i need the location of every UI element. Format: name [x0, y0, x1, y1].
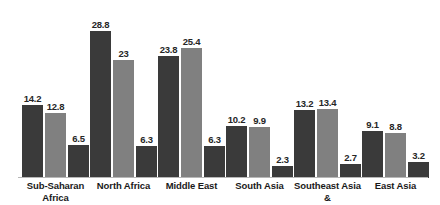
category-label: North Africa: [89, 180, 158, 192]
bar-slot: 3.2: [408, 0, 429, 178]
x-axis-baseline: [18, 177, 428, 178]
bar-slot: 10.2: [226, 0, 247, 178]
bar-value-label: 14.2: [24, 94, 42, 104]
category-label-line: North Africa: [89, 180, 158, 192]
bar-value-label: 2.3: [276, 155, 289, 165]
bar-group: 14.212.86.5: [21, 0, 90, 178]
bar-value-label: 13.4: [319, 98, 337, 108]
bar[interactable]: [68, 145, 89, 178]
bar-slot: 9.1: [362, 0, 383, 178]
bar[interactable]: [226, 126, 247, 178]
bar[interactable]: [317, 109, 338, 178]
category-label: Middle East: [157, 180, 226, 192]
bar[interactable]: [362, 131, 383, 178]
bar-value-label: 6.3: [140, 135, 153, 145]
bar-slot: 2.3: [272, 0, 293, 178]
plot-area: 14.212.86.528.8236.323.825.46.310.29.92.…: [0, 0, 440, 178]
category-label: Sub-SaharanAfrica: [21, 180, 90, 203]
bar[interactable]: [181, 48, 202, 178]
bar-value-label: 9.9: [253, 116, 266, 126]
bar-slot: 23.8: [158, 0, 179, 178]
bar[interactable]: [340, 164, 361, 178]
bar-value-label: 25.4: [183, 37, 201, 47]
bar-slot: 9.9: [249, 0, 270, 178]
bar-group: 13.213.42.7: [293, 0, 362, 178]
bar-value-label: 2.7: [344, 153, 357, 163]
category-label-line: Southeast Asia &: [293, 180, 362, 203]
bar-chart: 14.212.86.528.8236.323.825.46.310.29.92.…: [0, 0, 440, 205]
category-label-line: South Asia: [225, 180, 294, 192]
bar-value-label: 23: [118, 49, 128, 59]
bar-value-label: 23.8: [160, 45, 178, 55]
bar[interactable]: [204, 146, 225, 178]
bar-slot: 14.2: [22, 0, 43, 178]
category-axis-labels: Sub-SaharanAfricaNorth AfricaMiddle East…: [0, 180, 440, 205]
bar-slot: 25.4: [181, 0, 202, 178]
bar[interactable]: [45, 113, 66, 178]
bar[interactable]: [113, 60, 134, 178]
category-label: Southeast Asia &: [293, 180, 362, 203]
bar-group: 23.825.46.3: [157, 0, 226, 178]
bar-group: 9.18.83.2: [361, 0, 430, 178]
bar-value-label: 12.8: [47, 102, 65, 112]
bar-value-label: 9.1: [366, 120, 379, 130]
bar[interactable]: [408, 162, 429, 178]
bar-value-label: 3.2: [412, 151, 425, 161]
bar-slot: 8.8: [385, 0, 406, 178]
bar[interactable]: [136, 146, 157, 178]
bar[interactable]: [249, 127, 270, 178]
bar-value-label: 8.8: [389, 122, 402, 132]
bar-slot: 23: [113, 0, 134, 178]
bar-slot: 6.3: [136, 0, 157, 178]
bar-value-label: 13.2: [296, 99, 314, 109]
bar[interactable]: [158, 56, 179, 178]
bar[interactable]: [385, 133, 406, 178]
bar[interactable]: [294, 110, 315, 178]
bar-slot: 13.4: [317, 0, 338, 178]
category-label: South Asia: [225, 180, 294, 192]
bar-slot: 13.2: [294, 0, 315, 178]
bar[interactable]: [22, 105, 43, 178]
bar-slot: 2.7: [340, 0, 361, 178]
category-label-line: Middle East: [157, 180, 226, 192]
bar-slot: 6.3: [204, 0, 225, 178]
bar[interactable]: [90, 31, 111, 178]
bar-value-label: 6.3: [208, 135, 221, 145]
category-label-line: East Asia: [361, 180, 430, 192]
bar-slot: 28.8: [90, 0, 111, 178]
bar-group: 10.29.92.3: [225, 0, 294, 178]
bar-slot: 12.8: [45, 0, 66, 178]
bar-value-label: 6.5: [72, 134, 85, 144]
bar-slot: 6.5: [68, 0, 89, 178]
category-label-line: Africa: [21, 192, 90, 204]
category-label-line: Sub-Saharan: [21, 180, 90, 192]
bar-value-label: 10.2: [228, 115, 246, 125]
bar-group: 28.8236.3: [89, 0, 158, 178]
bar-value-label: 28.8: [92, 20, 110, 30]
category-label: East Asia: [361, 180, 430, 192]
